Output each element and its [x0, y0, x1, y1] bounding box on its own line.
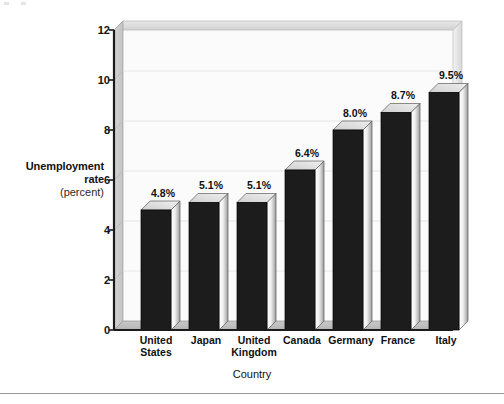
x-axis-title: Country: [0, 368, 504, 380]
y-axis-title-line3: (percent): [8, 186, 104, 199]
scan-artifact: [21, 2, 26, 5]
page-divider-rule: [0, 393, 504, 394]
chart-figure: 12 10 8 6 4 2 0 Unemployment rate (perce…: [0, 0, 504, 404]
y-tick-label-8: 8: [84, 124, 110, 136]
x-category-label-canada: Canada: [276, 334, 328, 346]
bar-united-states[interactable]: [141, 201, 180, 330]
bar-france[interactable]: [381, 104, 420, 331]
x-category-label-united-states: United States: [130, 334, 182, 358]
value-label-united-kingdom: 5.1%: [237, 179, 281, 191]
y-tick-label-0: 0: [84, 324, 110, 336]
bar-italy[interactable]: [429, 84, 468, 331]
x-category-label-italy: Italy: [422, 334, 470, 346]
value-label-japan: 5.1%: [189, 179, 233, 191]
value-label-france: 8.7%: [381, 89, 425, 101]
plot-ceiling: [114, 21, 462, 30]
y-tick-label-2: 2: [84, 274, 110, 286]
value-label-germany: 8.0%: [333, 107, 377, 119]
x-category-label-france: France: [372, 334, 424, 346]
bar-germany[interactable]: [333, 121, 372, 330]
value-label-italy: 9.5%: [429, 69, 473, 81]
scan-artifact: [4, 2, 9, 5]
bar-japan[interactable]: [189, 194, 228, 331]
value-label-united-states: 4.8%: [141, 187, 185, 199]
bar-canada[interactable]: [285, 161, 324, 330]
bar-united-kingdom[interactable]: [237, 194, 276, 331]
y-tick-label-4: 4: [84, 224, 110, 236]
y-axis-title-line2: rate: [8, 173, 104, 186]
y-axis-title-line1: Unemployment: [8, 160, 104, 173]
value-label-canada: 6.4%: [285, 147, 329, 159]
y-tick-label-10: 10: [84, 74, 110, 86]
y-axis-title: Unemployment rate (percent): [8, 160, 104, 199]
x-category-label-japan: Japan: [180, 334, 232, 346]
y-tick-label-12: 12: [84, 24, 110, 36]
x-category-label-united-kingdom: United Kingdom: [226, 334, 282, 358]
